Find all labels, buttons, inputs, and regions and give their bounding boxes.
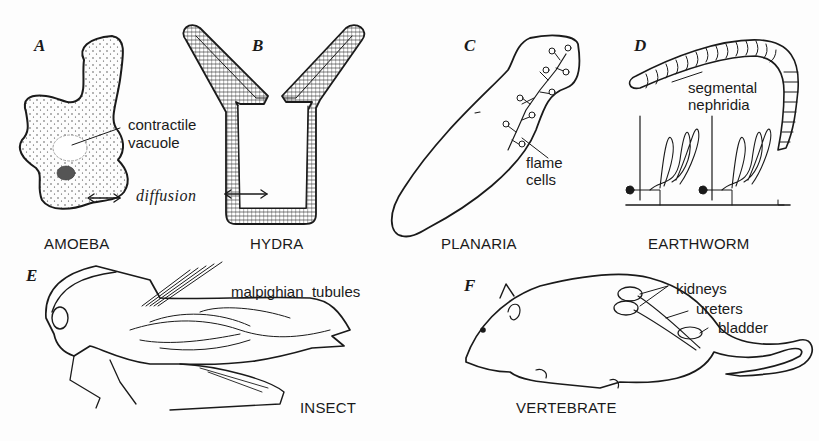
label-diffusion: diffusion — [136, 187, 197, 205]
panel-letter-e: E — [26, 266, 37, 286]
excretory-systems-figure: A B C D E F contractile vacuole diffusio… — [0, 0, 819, 441]
label-vacuole: vacuole — [128, 134, 180, 152]
caption-hydra: HYDRA — [250, 235, 304, 252]
label-bladder: bladder — [718, 319, 768, 337]
label-flame: flame — [526, 154, 563, 172]
label-contractile: contractile — [128, 116, 196, 134]
label-segmental: segmental — [688, 79, 757, 97]
planaria-drawing — [392, 36, 580, 237]
hydra-drawing — [183, 25, 364, 224]
caption-planaria: PLANARIA — [441, 235, 517, 252]
label-kidneys: kidneys — [676, 280, 727, 298]
caption-earthworm: EARTHWORM — [648, 235, 750, 252]
caption-insect: INSECT — [300, 399, 356, 416]
figure-artwork — [0, 0, 819, 441]
earthworm-drawing — [626, 40, 798, 205]
panel-letter-d: D — [634, 36, 646, 56]
label-nephridia: nephridia — [688, 96, 750, 114]
caption-amoeba: AMOEBA — [44, 235, 109, 252]
caption-vertebrate: VERTEBRATE — [516, 399, 617, 416]
panel-letter-c: C — [464, 36, 475, 56]
panel-letter-b: B — [252, 36, 263, 56]
panel-letter-f: F — [464, 276, 475, 296]
label-malpighian-tubules: malpighian tubules — [231, 283, 360, 301]
label-ureters: ureters — [696, 300, 743, 318]
amoeba-drawing — [20, 36, 128, 209]
label-cells: cells — [526, 171, 556, 189]
panel-letter-a: A — [34, 36, 45, 56]
